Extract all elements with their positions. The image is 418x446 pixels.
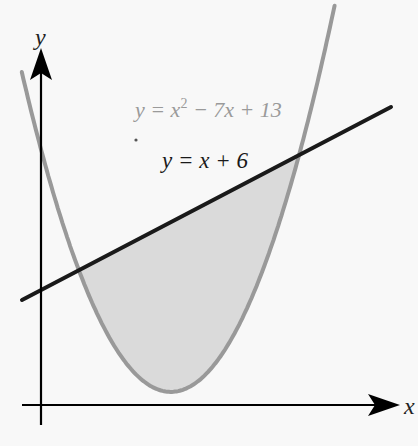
parabola-equation-label: y = x2 − 7x + 13 [133, 96, 282, 122]
shaded-region [79, 153, 300, 392]
diagram-canvas: y x y = x2 − 7x + 13 y = x + 6 [0, 0, 418, 446]
parabola-eq-rhs: − 7x + 13 [187, 97, 281, 122]
x-axis-label: x [403, 393, 415, 419]
line-equation-label: y = x + 6 [160, 148, 248, 173]
dot-marker [134, 138, 137, 141]
graph-svg: y x y = x2 − 7x + 13 y = x + 6 [0, 0, 418, 446]
parabola-eq-sup: 2 [180, 96, 187, 111]
parabola-eq-lhs: y = x [133, 97, 181, 122]
y-axis-label: y [33, 24, 46, 50]
